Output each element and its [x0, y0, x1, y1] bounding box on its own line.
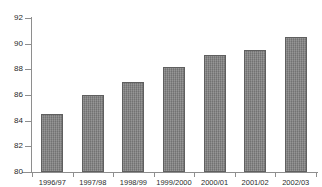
y-axis-tick-label-text: 90 — [1, 40, 23, 48]
x-axis-tick — [154, 172, 155, 177]
x-axis-tick-label: 1996/97 — [32, 178, 73, 187]
y-axis-tick-label: 86 — [0, 91, 23, 99]
y-axis-tick — [25, 172, 32, 173]
plot-area — [32, 14, 316, 172]
x-axis-tick-label: 1997/98 — [73, 178, 114, 187]
bar — [82, 95, 104, 172]
y-axis-tick-label-text: 82 — [1, 142, 23, 150]
x-axis-tick — [73, 172, 74, 177]
x-axis-tick — [316, 172, 317, 177]
x-axis-tick-label: 2001/02 — [235, 178, 276, 187]
y-axis-tick — [25, 95, 32, 96]
x-axis-tick — [194, 172, 195, 177]
y-axis-tick-label-text: 80 — [1, 168, 23, 176]
y-axis-tick — [25, 146, 32, 147]
y-axis-tick — [25, 121, 32, 122]
y-axis-tick-label: 84 — [0, 117, 23, 125]
y-axis-tick-label: 92 — [0, 14, 23, 22]
y-axis-tick — [25, 69, 32, 70]
bar — [244, 50, 266, 172]
y-axis-tick-label-text: 92 — [1, 14, 23, 22]
x-axis-tick-label: 1998/99 — [113, 178, 154, 187]
x-axis-tick — [113, 172, 114, 177]
x-axis-tick — [275, 172, 276, 177]
y-axis-tick — [25, 44, 32, 45]
y-axis-tick-label: 82 — [0, 142, 23, 150]
y-axis-tick-label: 88 — [0, 65, 23, 73]
x-axis-line — [22, 172, 318, 173]
y-axis-tick-label-text: 88 — [1, 65, 23, 73]
y-axis-tick-label: 90 — [0, 40, 23, 48]
bar — [163, 67, 185, 172]
bar-chart: 80828486889092 1996/971997/981998/991999… — [0, 0, 322, 187]
y-axis-tick — [25, 18, 32, 19]
x-axis-tick-label: 2000/01 — [194, 178, 235, 187]
x-axis-tick — [235, 172, 236, 177]
bar — [41, 114, 63, 172]
bar — [122, 82, 144, 172]
x-axis-tick-label: 2002/03 — [275, 178, 316, 187]
x-axis-tick — [32, 172, 33, 177]
x-axis-tick-label: 1999/2000 — [154, 178, 195, 187]
bar — [285, 37, 307, 172]
y-axis-tick-label: 80 — [0, 168, 23, 176]
y-axis-tick-label-text: 86 — [1, 91, 23, 99]
y-axis-tick-label-text: 84 — [1, 117, 23, 125]
bar — [204, 55, 226, 172]
